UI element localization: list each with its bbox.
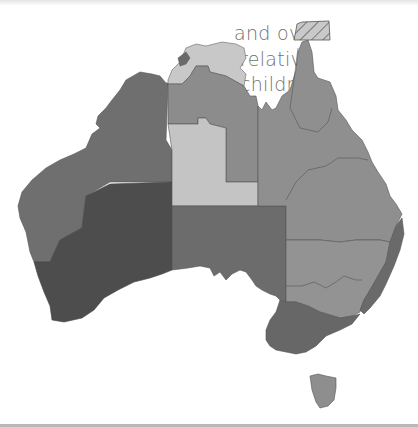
australia-map: [0, 0, 418, 427]
region-torres-strait[interactable]: [294, 21, 330, 40]
region-sa[interactable]: [172, 206, 286, 302]
region-tas[interactable]: [310, 374, 336, 408]
